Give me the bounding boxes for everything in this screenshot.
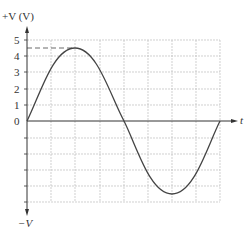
tick-label-1: 1: [14, 100, 20, 111]
y-negative-label: −V: [18, 218, 32, 229]
tick-label-4: 4: [14, 51, 20, 62]
tick-label-5: 5: [14, 35, 20, 46]
x-axis-arrow: [231, 119, 238, 123]
sine-wave-chart: [0, 0, 251, 236]
tick-label-2: 2: [14, 84, 20, 95]
y-axis-arrow-up: [25, 26, 29, 33]
y-axis-arrow-down: [25, 209, 29, 216]
tick-label-0: 0: [14, 116, 20, 127]
y-axis-label: +V (V): [2, 11, 34, 22]
x-axis-label: t: [240, 115, 243, 126]
tick-label-3: 3: [14, 67, 20, 78]
